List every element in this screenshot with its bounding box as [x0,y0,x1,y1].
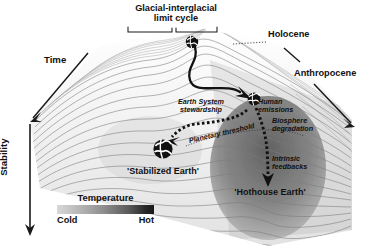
limit-cycle-label: Glacial-interglacial limit cycle [115,4,237,24]
stability-axis-label: Stability [0,139,10,176]
time-axis-label: Time [44,55,66,65]
earth-system-stewardship-label: Earth System stewardship [170,98,232,114]
temperature-legend: Temperature Cold Hot [57,192,154,227]
globe-icon [186,36,198,48]
stability-landscape-figure: Glacial-interglacial limit cycle Holocen… [0,0,372,247]
stabilized-earth-label: 'Stabilized Earth' [111,167,215,177]
hothouse-earth-label: 'Hothouse Earth' [222,188,318,198]
legend-title: Temperature [57,192,154,203]
human-emissions-label: Human emissions [258,98,304,114]
temperature-gradient-bar [57,205,154,214]
legend-scale: Cold Hot [57,215,154,227]
intrinsic-feedbacks-label: Intrinsic feedbacks [272,155,320,171]
globe-icon [153,139,172,158]
anthropocene-label: Anthropocene [294,69,356,79]
legend-cold-label: Cold [57,215,77,225]
legend-hot-label: Hot [139,215,154,225]
holocene-label: Holocene [268,30,309,40]
biosphere-degradation-label: Biosphere degradation [272,117,326,133]
